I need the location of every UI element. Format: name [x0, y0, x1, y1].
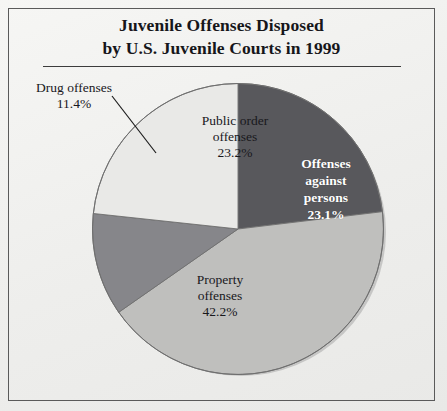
slice-label-line-1: Property — [197, 272, 244, 287]
slice-label-line-2: offenses — [198, 288, 243, 303]
pie-chart: Offenses against persons 23.1% Public or… — [0, 0, 447, 411]
slice-value-property-offenses: 42.2% — [169, 304, 271, 320]
slice-label-drug-offenses: Drug offenses 11.4% — [22, 80, 126, 112]
slice-value-drug-offenses: 11.4% — [22, 96, 126, 112]
slice-label-property-offenses: Property offenses 42.2% — [169, 272, 271, 320]
slice-label-line-1: Drug offenses — [36, 80, 112, 95]
slice-label-line-3: persons — [304, 190, 348, 205]
slice-label-line-1: Offenses — [301, 156, 351, 171]
slice-value-offenses-against-persons: 23.1% — [283, 206, 369, 223]
slice-value-public-order-offenses: 23.2% — [182, 145, 288, 161]
slice-label-line-1: Public order — [202, 113, 268, 128]
slice-label-line-2: against — [305, 173, 346, 188]
slice-label-line-2: offenses — [213, 129, 258, 144]
pie-chart-svg — [0, 0, 447, 411]
figure-panel: Juvenile Offenses Disposed by U.S. Juven… — [0, 0, 447, 411]
slice-label-public-order-offenses: Public order offenses 23.2% — [182, 113, 288, 161]
slice-label-offenses-against-persons: Offenses against persons 23.1% — [283, 155, 369, 223]
